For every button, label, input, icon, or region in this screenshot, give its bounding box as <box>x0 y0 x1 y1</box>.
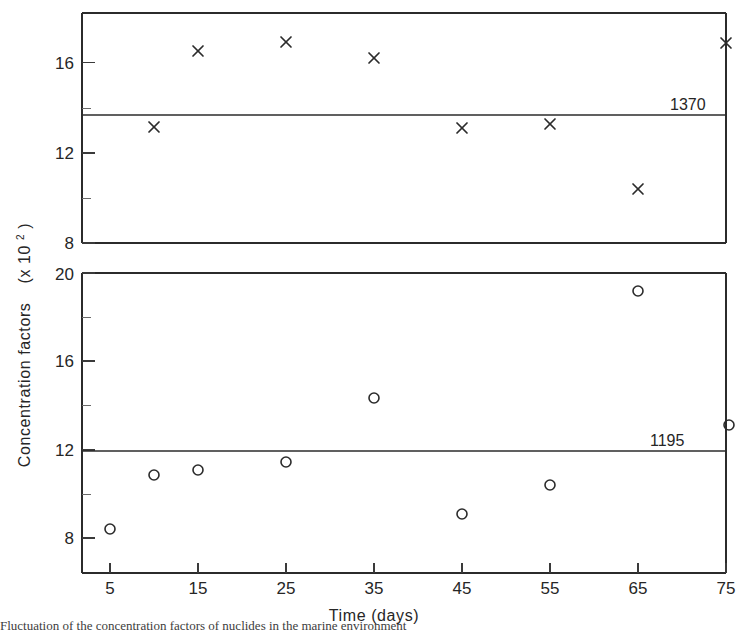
xaxis-tick-labels: 5 15 25 35 45 55 65 75 <box>105 579 735 598</box>
top-marker-x-d45 <box>457 123 467 133</box>
top-marker-x-d35 <box>369 53 379 63</box>
xtick-label-15: 15 <box>189 579 208 598</box>
top-ytick-label-16: 16 <box>55 54 74 73</box>
bottom-ytick-label-8: 8 <box>65 529 74 548</box>
y-axis-title-unit-suffix: ) <box>16 223 33 229</box>
bottom-marker-o-d15 <box>193 465 203 475</box>
bottom-ytick-label-12: 12 <box>55 441 74 460</box>
bottom-marker-o-d65 <box>633 286 643 296</box>
top-reference-label: 1370 <box>670 96 706 113</box>
y-axis-title-unit-exp: 2 <box>15 234 26 240</box>
chart-svg: 16 12 8 1370 <box>0 0 749 634</box>
xaxis-ticks <box>110 563 726 573</box>
bottom-reference-label: 1195 <box>650 432 685 449</box>
xtick-label-35: 35 <box>365 579 384 598</box>
figure-container: 16 12 8 1370 <box>0 0 749 634</box>
xtick-label-65: 65 <box>629 579 648 598</box>
top-marker-x-d55 <box>545 119 555 129</box>
y-axis-title-group: Concentration factors (x 10 2 ) <box>10 223 33 468</box>
top-marker-x-d15 <box>193 46 203 56</box>
bottom-data-markers <box>105 286 734 534</box>
xtick-label-55: 55 <box>541 579 560 598</box>
bottom-marker-o-d45 <box>457 509 467 519</box>
bottom-marker-o-d25 <box>281 457 291 467</box>
top-panel: 16 12 8 1370 <box>55 13 731 253</box>
y-axis-title-unit-prefix: (x 10 <box>16 245 33 284</box>
bottom-marker-o-d5 <box>105 524 115 534</box>
bottom-marker-o-d10 <box>149 470 159 480</box>
bottom-ytick-label-20: 20 <box>55 265 74 284</box>
y-axis-title-main: Concentration factors <box>16 303 33 468</box>
bottom-ytick-label-16: 16 <box>55 352 74 371</box>
top-marker-x-d65 <box>633 184 643 194</box>
xtick-label-45: 45 <box>453 579 472 598</box>
top-ytick-label-12: 12 <box>55 144 74 163</box>
top-marker-x-d10 <box>149 122 159 132</box>
top-marker-x-d25 <box>281 37 291 47</box>
xtick-label-5: 5 <box>105 579 114 598</box>
bottom-marker-o-d55 <box>545 480 555 490</box>
bottom-marker-o-d35 <box>369 393 379 403</box>
y-axis-title: Concentration factors (x 10 2 ) <box>10 223 33 468</box>
bottom-panel: 20 16 12 8 1195 5 15 25 35 <box>55 265 735 598</box>
xtick-label-25: 25 <box>277 579 296 598</box>
xtick-label-75: 75 <box>717 579 736 598</box>
figure-caption: Fluctuation of the concentration factors… <box>0 617 749 634</box>
top-ytick-label-8: 8 <box>65 234 74 253</box>
